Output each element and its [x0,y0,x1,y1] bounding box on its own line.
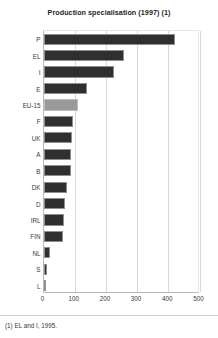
bar-nl [44,247,51,258]
y-axis-label-e: E [36,85,40,92]
bar-a [44,149,72,160]
y-axis-label-el: EL [33,52,41,59]
bar-f [44,116,74,127]
y-axis-label-s: S [36,266,40,273]
bar-row: L [44,278,198,294]
bar-row: I [44,64,198,80]
y-axis-label-nl: NL [32,249,40,256]
bar-row: NL [44,245,198,261]
bar-l [44,280,46,291]
x-tick-100: 100 [68,295,79,302]
y-axis-label-i: I [39,69,41,76]
y-axis-label-f: F [37,118,41,125]
y-axis-label-b: B [36,167,40,174]
bar-e [44,83,88,94]
bar-row: FIN [44,228,198,244]
bar-row: D [44,195,198,211]
bar-dk [44,182,68,193]
bar-row: S [44,261,198,277]
bar-row: IRL [44,212,198,228]
bar-row: P [44,31,198,47]
plot-area: PELIEEU-15FUKABDKDIRLFINNLSL [43,30,199,293]
bar-row: DK [44,179,198,195]
y-axis-label-irl: IRL [31,217,41,224]
x-tick-300: 300 [131,295,142,302]
bar-row: B [44,163,198,179]
y-axis-label-dk: DK [32,184,41,191]
bar-fin [44,231,63,242]
chart-figure: Production specialisation (1997) (1) PEL… [0,0,218,338]
y-axis-label-eu-15: EU-15 [23,101,41,108]
chart-footnote: (1) EL and I, 1995. [5,322,57,329]
y-axis-label-l: L [37,282,41,289]
bar-row: A [44,146,198,162]
y-axis-label-a: A [36,151,40,158]
bar-uk [44,132,72,143]
bar-p [44,34,175,45]
bar-eu-15 [44,99,78,110]
x-tick-0: 0 [41,295,45,302]
bar-el [44,50,124,61]
chart-title: Production specialisation (1997) (1) [0,8,218,17]
bar-row: F [44,113,198,129]
bar-b [44,165,71,176]
bar-i [44,66,115,77]
bar-series: PELIEEU-15FUKABDKDIRLFINNLSL [44,31,198,292]
y-axis-label-d: D [36,200,41,207]
bar-row: E [44,80,198,96]
gridline-500 [200,31,201,292]
bar-s [44,264,47,275]
bar-d [44,198,66,209]
bar-irl [44,214,65,225]
x-tick-400: 400 [162,295,173,302]
y-axis-label-uk: UK [32,134,41,141]
x-tick-500: 500 [193,295,204,302]
bar-row: EU-15 [44,97,198,113]
y-axis-label-p: P [36,36,40,43]
footnote-divider [0,315,218,316]
y-axis-label-fin: FIN [30,233,40,240]
bar-row: EL [44,47,198,63]
x-tick-200: 200 [100,295,111,302]
bar-row: UK [44,130,198,146]
